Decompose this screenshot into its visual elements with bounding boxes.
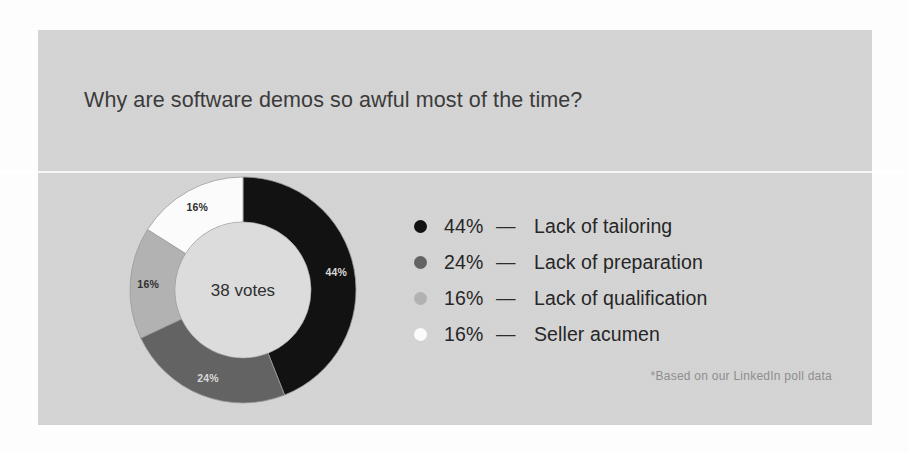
legend-percent: 24% bbox=[444, 251, 496, 274]
page-title: Why are software demos so awful most of … bbox=[84, 88, 582, 113]
legend-percent: 16% bbox=[444, 323, 496, 346]
legend-label: Lack of preparation bbox=[534, 251, 703, 274]
bullet-dot-black-icon bbox=[414, 220, 427, 233]
legend-dash: — bbox=[496, 215, 534, 238]
poll-result-card: Why are software demos so awful most of … bbox=[38, 30, 872, 425]
donut-slice-label-3: 16% bbox=[137, 278, 159, 290]
legend-item-1: 44%—Lack of tailoring bbox=[414, 208, 834, 244]
donut-chart-svg: 38 votes 44%24%16%16% bbox=[90, 145, 396, 405]
legend-percent: 44% bbox=[444, 215, 496, 238]
bullet-dot-light-gray-icon bbox=[414, 292, 427, 305]
chart-legend: 44%—Lack of tailoring24%—Lack of prepara… bbox=[414, 208, 834, 352]
legend-label: Seller acumen bbox=[534, 323, 660, 346]
legend-item-2: 24%—Lack of preparation bbox=[414, 244, 834, 280]
bullet-dot-white-icon bbox=[414, 328, 427, 341]
donut-slice-label-1: 44% bbox=[326, 266, 348, 278]
legend-item-3: 16%—Lack of qualification bbox=[414, 280, 834, 316]
bullet-dot-dark-gray-icon bbox=[414, 256, 427, 269]
donut-slice-label-4: 16% bbox=[186, 201, 208, 213]
legend-label: Lack of qualification bbox=[534, 287, 707, 310]
footnote-source: *Based on our LinkedIn poll data bbox=[651, 369, 832, 383]
donut-chart: 38 votes 44%24%16%16% bbox=[90, 145, 396, 405]
legend-dash: — bbox=[496, 251, 534, 274]
donut-center-label: 38 votes bbox=[211, 281, 275, 300]
legend-item-4: 16%—Seller acumen bbox=[414, 316, 834, 352]
legend-dash: — bbox=[496, 287, 534, 310]
donut-slice-label-2: 24% bbox=[197, 372, 219, 384]
legend-dash: — bbox=[496, 323, 534, 346]
legend-percent: 16% bbox=[444, 287, 496, 310]
legend-label: Lack of tailoring bbox=[534, 215, 672, 238]
